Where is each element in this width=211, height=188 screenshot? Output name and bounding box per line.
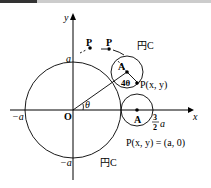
svg-text:P: P bbox=[106, 37, 112, 48]
svg-text:a: a bbox=[160, 118, 165, 129]
point-a-lower: A bbox=[134, 114, 142, 125]
y-axis-label: y bbox=[63, 12, 69, 23]
geometry-diagram: x y O a −a −a 3 2 a A A P P P(x, y) P(x,… bbox=[0, 0, 211, 188]
tick-neg-a-left: −a bbox=[12, 111, 24, 122]
svg-text:P: P bbox=[86, 37, 92, 48]
point-p-upper: P(x, y) bbox=[140, 79, 167, 91]
point-p-lower: P(x, y) = (a, 0) bbox=[126, 137, 185, 149]
point-a-upper: A bbox=[118, 61, 126, 72]
tick-a-top: a bbox=[66, 53, 71, 64]
radius-line bbox=[73, 72, 127, 110]
y-axis-arrow-icon bbox=[70, 13, 76, 20]
origin-label: O bbox=[64, 111, 72, 122]
svg-text:θ: θ bbox=[85, 99, 90, 110]
circle-c1-label: 円C bbox=[100, 157, 117, 168]
svg-text:4θ: 4θ bbox=[121, 78, 131, 88]
svg-text:3: 3 bbox=[153, 113, 157, 122]
svg-text:2: 2 bbox=[153, 123, 157, 132]
tick-neg-a-bottom: −a bbox=[60, 157, 72, 168]
x-axis-label: x bbox=[192, 111, 198, 122]
circle-c2-label: 円C bbox=[137, 40, 154, 51]
